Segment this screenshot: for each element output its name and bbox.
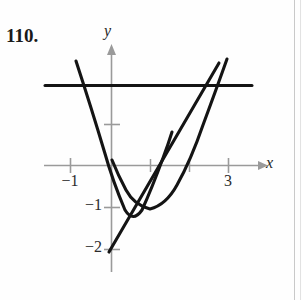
- x-axis-label: x: [266, 154, 273, 172]
- graph-svg: [0, 0, 302, 300]
- x-tick-label--1: −1: [56, 172, 84, 190]
- y-tick-label--2: −2: [68, 238, 102, 256]
- tick-marks-group: [71, 125, 229, 250]
- y-axis-arrowhead: [107, 44, 116, 55]
- curves-group: [45, 59, 252, 252]
- straight-line-curve: [109, 63, 219, 252]
- x-tick-label-3: 3: [216, 172, 240, 190]
- y-axis-label: y: [104, 22, 111, 40]
- graph-figure: y x −1 3 −1 −2: [0, 0, 302, 300]
- textbook-page: · · · 110.: [0, 0, 302, 300]
- y-tick-label--1: −1: [68, 196, 102, 214]
